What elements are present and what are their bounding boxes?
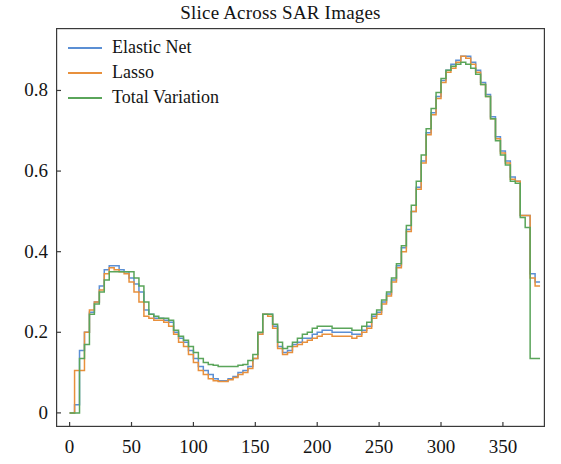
x-tick-label: 50 <box>122 436 141 458</box>
legend-item[interactable]: Lasso <box>68 60 219 85</box>
y-tick-label: 0.4 <box>0 241 48 263</box>
x-tick-label: 250 <box>365 436 394 458</box>
x-tick-label: 300 <box>427 436 456 458</box>
y-tick-label: 0.2 <box>0 321 48 343</box>
chart-legend: Elastic NetLassoTotal Variation <box>66 33 225 112</box>
y-tick-label: 0.8 <box>0 79 48 101</box>
legend-color-swatch <box>68 97 102 99</box>
x-tick-label: 350 <box>489 436 518 458</box>
legend-item[interactable]: Elastic Net <box>68 35 219 60</box>
legend-item-label: Elastic Net <box>112 37 191 58</box>
chart-title: Slice Across SAR Images <box>0 2 561 24</box>
x-tick-label: 200 <box>303 436 332 458</box>
legend-color-swatch <box>68 47 102 49</box>
y-tick-label: 0.6 <box>0 160 48 182</box>
chart-figure: Slice Across SAR Images 00.20.40.60.8 05… <box>0 0 561 464</box>
legend-item[interactable]: Total Variation <box>68 85 219 110</box>
legend-item-label: Total Variation <box>112 87 219 108</box>
x-tick-label: 100 <box>179 436 208 458</box>
legend-item-label: Lasso <box>112 62 154 83</box>
legend-color-swatch <box>68 72 102 74</box>
series-line-total-variation <box>70 62 540 413</box>
y-tick-label: 0 <box>0 402 48 424</box>
x-tick-label: 0 <box>65 436 75 458</box>
x-tick-label: 150 <box>241 436 270 458</box>
